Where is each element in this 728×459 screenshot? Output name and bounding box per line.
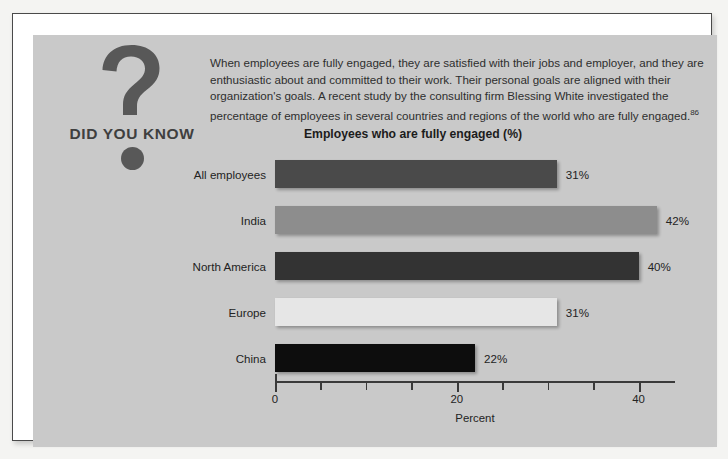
chart-title: Employees who are fully engaged (%)	[203, 127, 623, 141]
bar-row: Europe31%	[141, 289, 701, 335]
x-axis-minor-tick	[502, 383, 504, 390]
footnote-marker: 86	[690, 108, 699, 117]
x-axis-origin-cap	[275, 374, 277, 383]
x-axis-minor-tick	[548, 383, 550, 390]
figure-frame: DID YOU KNOW When employees are fully en…	[12, 13, 712, 441]
intro-paragraph: When employees are fully engaged, they a…	[210, 55, 714, 124]
x-axis-tick-label: 40	[632, 393, 645, 405]
x-axis-major-tick	[457, 383, 459, 392]
bar-value-label: 22%	[484, 352, 507, 365]
intro-text: When employees are fully engaged, they a…	[210, 56, 704, 122]
bar-value-label: 31%	[566, 168, 589, 181]
did-you-know-label: DID YOU KNOW	[59, 125, 205, 143]
x-axis-minor-tick	[366, 383, 368, 390]
bar-row: China22%	[141, 335, 701, 381]
bar-row: All employees31%	[141, 151, 701, 197]
x-axis-label: Percent	[275, 412, 675, 424]
bar-area: 42%	[275, 197, 701, 243]
bar-row: North America40%	[141, 243, 701, 289]
bar-category-label: India	[141, 214, 275, 227]
did-you-know-panel: DID YOU KNOW When employees are fully en…	[33, 35, 717, 447]
bar-category-label: North America	[141, 260, 275, 273]
bar-area: 22%	[275, 335, 701, 381]
x-axis-minor-tick	[320, 383, 322, 390]
bar-category-label: China	[141, 352, 275, 365]
bar	[275, 206, 657, 234]
bar-area: 40%	[275, 243, 701, 289]
x-axis-tick-label: 0	[272, 393, 278, 405]
x-axis-minor-tick	[411, 383, 413, 390]
bar-chart: All employees31%India42%North America40%…	[141, 151, 701, 401]
x-axis-tick-label: 20	[450, 393, 463, 405]
x-axis-minor-tick	[593, 383, 595, 390]
bar	[275, 298, 557, 326]
bar	[275, 252, 639, 280]
bar	[275, 160, 557, 188]
figure-page: DID YOU KNOW When employees are fully en…	[0, 0, 728, 459]
x-axis-major-tick	[275, 383, 277, 392]
bar-area: 31%	[275, 151, 701, 197]
bar-category-label: All employees	[141, 168, 275, 181]
x-axis-major-tick	[639, 383, 641, 392]
bar-value-label: 42%	[666, 214, 689, 227]
bar-row: India42%	[141, 197, 701, 243]
bar-value-label: 40%	[648, 260, 671, 273]
bar	[275, 344, 475, 372]
bar-category-label: Europe	[141, 306, 275, 319]
x-axis-line	[275, 381, 675, 383]
bar-area: 31%	[275, 289, 701, 335]
question-mark-icon	[59, 43, 205, 125]
x-axis: 02040	[275, 381, 675, 383]
bar-value-label: 31%	[566, 306, 589, 319]
